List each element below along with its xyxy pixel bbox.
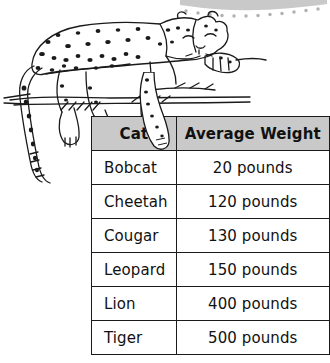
table-header: Cat Average Weight: [92, 117, 330, 151]
table-row: Leopard 150 pounds: [92, 253, 330, 287]
table-body: Bobcat 20 pounds Cheetah 120 pounds Coug…: [92, 151, 330, 355]
cell-average-weight: 500 pounds: [176, 321, 329, 355]
cell-cat-name: Tiger: [92, 321, 177, 355]
table-row: Tiger 500 pounds: [92, 321, 330, 355]
table-row: Cougar 130 pounds: [92, 219, 330, 253]
cell-cat-name: Leopard: [92, 253, 177, 287]
cell-average-weight: 130 pounds: [176, 219, 329, 253]
cell-average-weight: 400 pounds: [176, 287, 329, 321]
table-row: Bobcat 20 pounds: [92, 151, 330, 185]
table-row: Lion 400 pounds: [92, 287, 330, 321]
cell-cat-name: Cheetah: [92, 185, 177, 219]
cell-average-weight: 120 pounds: [176, 185, 329, 219]
cell-average-weight: 150 pounds: [176, 253, 329, 287]
cell-average-weight: 20 pounds: [176, 151, 329, 185]
table-header-row: Cat Average Weight: [92, 117, 330, 151]
table-row: Cheetah 120 pounds: [92, 185, 330, 219]
column-header-average-weight: Average Weight: [176, 117, 329, 151]
cat-average-weight-table: Cat Average Weight Bobcat 20 pounds Chee…: [91, 116, 330, 355]
cell-cat-name: Cougar: [92, 219, 177, 253]
cell-cat-name: Lion: [92, 287, 177, 321]
column-header-cat: Cat: [92, 117, 177, 151]
cell-cat-name: Bobcat: [92, 151, 177, 185]
